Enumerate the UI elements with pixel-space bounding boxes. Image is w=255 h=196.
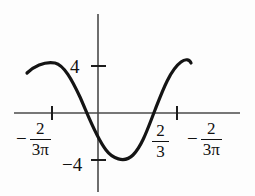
- fraction-left: 2 3π: [30, 120, 51, 159]
- x-axis-label-right: − 2 3π: [187, 120, 222, 159]
- fraction-middle-right-numerator: 2: [154, 122, 167, 141]
- fraction-right-numerator: 2: [205, 120, 218, 139]
- fraction-left-numerator: 2: [34, 120, 47, 139]
- y-axis-label-negative-four: −4: [62, 155, 82, 174]
- fraction-left-denominator: 3π: [30, 140, 51, 159]
- fraction-right: 2 3π: [201, 120, 222, 159]
- fraction-middle-right: 2 3: [152, 122, 169, 161]
- x-axis-label-left: − 2 3π: [16, 120, 51, 159]
- minus-sign-left: −: [16, 129, 27, 150]
- y-axis-label-positive-four: 4: [70, 57, 80, 76]
- graph-figure: 4 −4 − 2 3π 2 3 − 2 3π: [0, 0, 255, 196]
- plot-canvas: [0, 0, 255, 196]
- minus-sign-right: −: [187, 129, 198, 150]
- fraction-right-denominator: 3π: [201, 140, 222, 159]
- x-axis-label-middle-right: 2 3: [152, 122, 169, 161]
- fraction-middle-right-denominator: 3: [154, 142, 167, 161]
